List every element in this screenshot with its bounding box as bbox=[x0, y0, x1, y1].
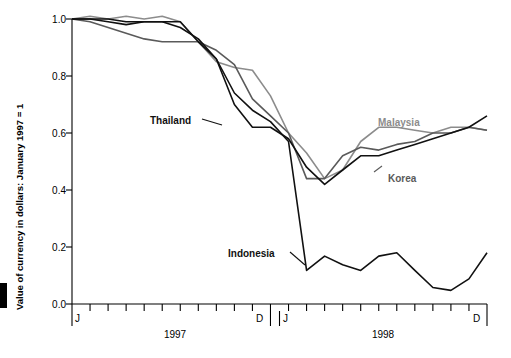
x-tick-label-1998-start: J bbox=[283, 313, 288, 324]
series-label-indonesia: Indonesia bbox=[228, 248, 275, 259]
x-axis-group-label-1997: 1997 bbox=[145, 329, 205, 340]
x-axis-group-label-1998: 1998 bbox=[353, 329, 413, 340]
series-label-thailand: Thailand bbox=[150, 115, 191, 126]
y-axis-ticks bbox=[66, 19, 72, 304]
series-line-indonesia bbox=[72, 19, 487, 290]
x-tick-label-1998-end: D bbox=[473, 313, 480, 324]
series-line-malaysia bbox=[72, 16, 487, 178]
leader-line-thailand bbox=[202, 119, 222, 125]
series-label-korea: Korea bbox=[388, 173, 416, 184]
series-line-korea bbox=[72, 19, 487, 179]
chart-plot-area bbox=[0, 0, 511, 358]
series-label-malaysia: Malaysia bbox=[378, 117, 420, 128]
x-tick-label-1997-end: D bbox=[256, 313, 263, 324]
series-line-thailand bbox=[72, 19, 487, 184]
leader-line-indonesia bbox=[290, 252, 305, 265]
x-tick-label-1997-start: J bbox=[75, 313, 80, 324]
leader-line-korea bbox=[374, 166, 382, 172]
x-axis-ticks bbox=[72, 304, 487, 326]
currency-line-chart: Value of currency in dollars: January 19… bbox=[0, 0, 511, 358]
